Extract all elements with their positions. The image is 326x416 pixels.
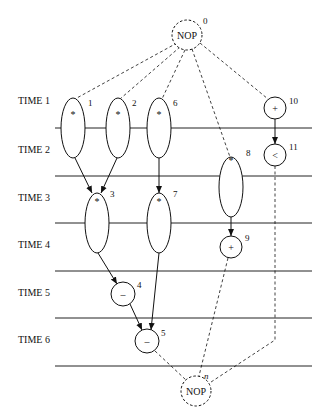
node-7[interactable]: * 7: [147, 189, 178, 253]
edge-0-8: [192, 49, 230, 157]
node-index: 3: [110, 189, 115, 199]
node-index: 0: [203, 16, 208, 26]
node-op: *: [116, 109, 121, 120]
node-index: 11: [289, 142, 298, 152]
time-label: TIME 3: [18, 192, 50, 203]
node-op: +: [272, 103, 278, 114]
time-label: TIME 2: [18, 144, 50, 155]
node-index: 4: [137, 280, 142, 290]
multiplier-node: [61, 98, 85, 158]
node-5[interactable]: – 5: [135, 328, 166, 353]
node-index: 9: [245, 233, 250, 243]
node-4[interactable]: – 4: [111, 280, 142, 306]
edge-0-10: [200, 43, 268, 99]
edge-3-4: [98, 253, 117, 284]
scheduled-sequencing-graph: TIME 1 TIME 2 TIME 3 TIME 4 TIME 5 TIME …: [0, 0, 326, 416]
node-index: 1: [88, 98, 93, 108]
node-index: n: [204, 371, 209, 381]
edge-9-n: [199, 258, 228, 376]
node-op: *: [157, 109, 162, 120]
node-op: +: [228, 242, 234, 253]
edge-0-1: [75, 43, 177, 99]
node-op: –: [144, 336, 151, 347]
node-op: *: [95, 196, 100, 207]
node-11[interactable]: < 11: [264, 142, 298, 166]
edge-0-6: [162, 50, 185, 99]
node-index: 8: [246, 148, 251, 158]
node-index: 6: [173, 98, 178, 108]
time-label: TIME 1: [18, 95, 50, 106]
edge-4-5: [130, 304, 142, 330]
node-op: *: [157, 196, 162, 207]
node-op: –: [120, 289, 127, 300]
node-3[interactable]: * 3: [85, 189, 115, 253]
node-index: 7: [173, 189, 178, 199]
node-op: *: [229, 155, 234, 166]
time-labels: TIME 1 TIME 2 TIME 3 TIME 4 TIME 5 TIME …: [18, 95, 50, 345]
edge-0-2: [120, 47, 180, 99]
node-10[interactable]: + 10: [264, 96, 299, 119]
node-index: 5: [161, 328, 166, 338]
multiplier-node: [106, 98, 130, 158]
node-0[interactable]: NOP 0: [172, 16, 208, 50]
node-9[interactable]: + 9: [220, 233, 250, 258]
multiplier-node: [219, 157, 243, 217]
node-op: NOP: [186, 386, 206, 397]
time-label: TIME 5: [18, 287, 50, 298]
node-op: *: [71, 109, 76, 120]
node-op: <: [272, 150, 278, 161]
node-index: 10: [289, 96, 299, 106]
node-8[interactable]: * 8: [219, 148, 251, 217]
multiplier-node: [147, 98, 171, 158]
time-label: TIME 6: [18, 334, 50, 345]
time-label: TIME 4: [18, 239, 50, 250]
node-n[interactable]: NOP n: [181, 371, 211, 406]
node-op: NOP: [177, 30, 197, 41]
node-index: 2: [132, 98, 137, 108]
